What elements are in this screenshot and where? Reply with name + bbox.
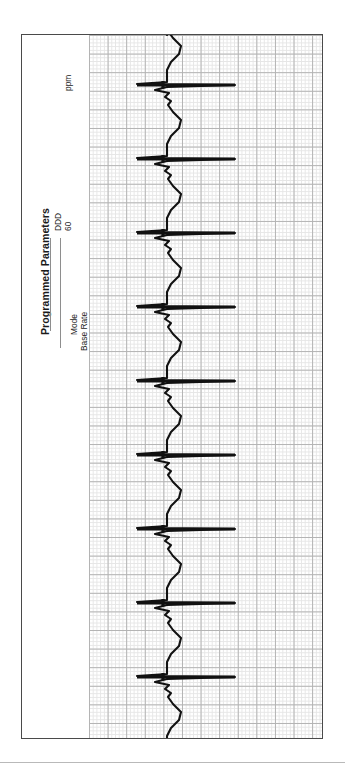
- leader-line-base-rate: [60, 238, 61, 348]
- footer-divider: [0, 762, 345, 763]
- ecg-waveform-trace: [89, 35, 322, 738]
- leader-line-mode: [50, 238, 51, 331]
- parameter-label-mode: Mode: [69, 314, 79, 335]
- ecg-strip-frame: Programmed Parameters Mode DDD Base Rate…: [21, 34, 323, 739]
- ecg-graph-paper: [89, 35, 322, 738]
- parameter-value-base-rate: 60: [63, 222, 73, 231]
- parameter-value-mode: DDD: [53, 213, 63, 231]
- ecg-waveform-path: [137, 35, 235, 738]
- programmed-parameters-panel: Programmed Parameters Mode DDD Base Rate…: [22, 35, 88, 738]
- parameter-unit-base-rate: ppm: [63, 75, 73, 91]
- pacing-spike-path: [137, 81, 235, 680]
- parameter-label-base-rate: Base Rate: [79, 312, 89, 351]
